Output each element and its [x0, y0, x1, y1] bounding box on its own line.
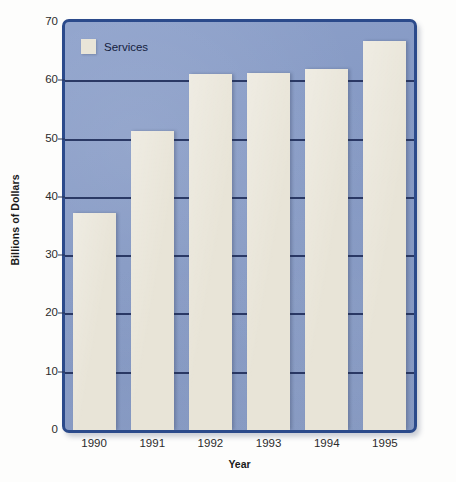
- y-axis-tick-mark: [58, 371, 65, 372]
- legend-swatch-services: [81, 39, 96, 54]
- gridline: [65, 313, 414, 315]
- x-axis-tick-label: 1993: [256, 437, 282, 449]
- gridline: [65, 372, 414, 374]
- gridline: [65, 255, 414, 257]
- y-axis-tick-labels: 010203040506070: [28, 0, 58, 482]
- y-axis-title-text: Billions of Dollars: [9, 174, 21, 265]
- x-axis-tick-label: 1994: [314, 437, 340, 449]
- bar: [131, 131, 174, 430]
- legend-label-services: Services: [104, 41, 148, 53]
- y-axis-tick-label: 40: [30, 191, 58, 203]
- gridline: [65, 139, 414, 141]
- legend: Services: [81, 39, 148, 54]
- plot-area: Services: [62, 19, 417, 433]
- bar: [73, 213, 116, 430]
- bar: [189, 74, 232, 430]
- x-axis-tick-label: 1992: [198, 437, 224, 449]
- x-axis-tick-labels: 199019911992199319941995: [62, 437, 417, 455]
- y-axis-tick-mark: [58, 196, 65, 197]
- bar-chart-figure: Billions of Dollars 010203040506070 Serv…: [0, 0, 456, 482]
- y-axis-tick-mark: [58, 80, 65, 81]
- gridline: [65, 80, 414, 82]
- x-axis-title: Year: [62, 458, 417, 470]
- y-axis-tick-label: 0: [30, 424, 58, 436]
- x-axis-tick-label: 1990: [81, 437, 107, 449]
- y-axis-tick-label: 70: [30, 16, 58, 28]
- y-axis-tick-mark: [58, 255, 65, 256]
- y-axis-tick-label: 60: [30, 75, 58, 87]
- bar: [305, 69, 348, 430]
- x-axis-tick-label: 1991: [139, 437, 165, 449]
- y-axis-tick-mark: [58, 313, 65, 314]
- x-axis-tick-label: 1995: [372, 437, 398, 449]
- gridline: [65, 197, 414, 199]
- y-axis-title: Billions of Dollars: [0, 0, 30, 440]
- y-axis-tick-label: 10: [30, 366, 58, 378]
- plot-inner: [65, 22, 414, 430]
- y-axis-tick-label: 50: [30, 133, 58, 145]
- y-axis-tick-label: 30: [30, 249, 58, 261]
- y-axis-tick-label: 20: [30, 308, 58, 320]
- bar: [247, 73, 290, 430]
- y-axis-tick-mark: [58, 138, 65, 139]
- bar: [363, 41, 406, 430]
